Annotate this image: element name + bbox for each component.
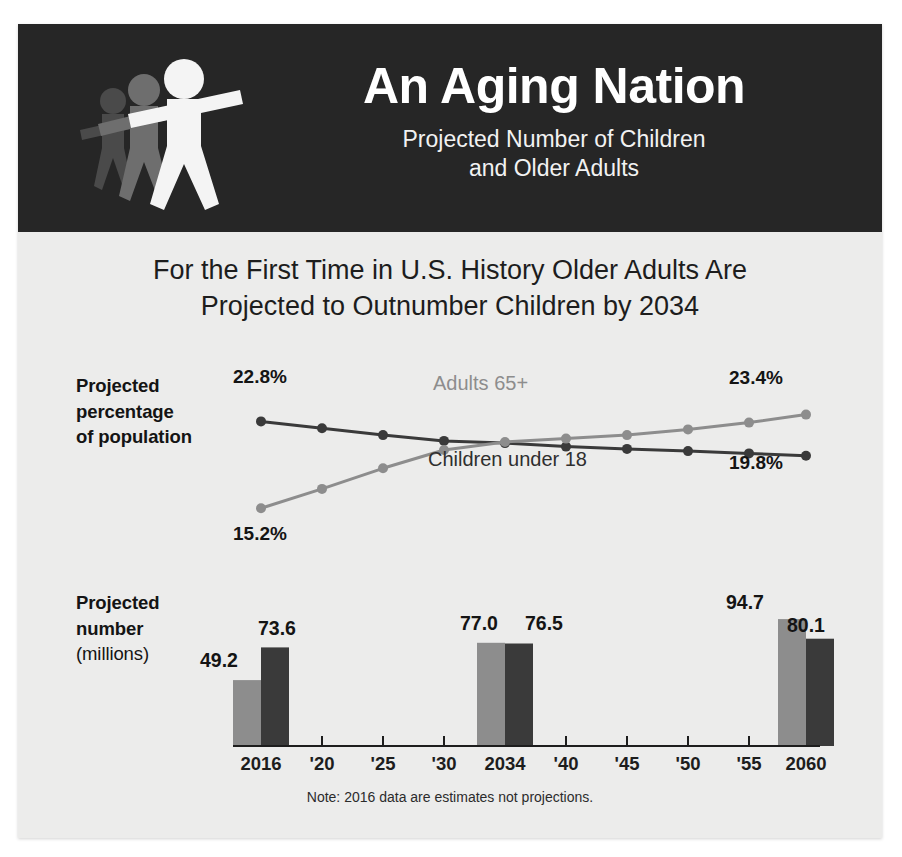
data-point (256, 416, 266, 426)
axis-label-2016: 2016 (240, 753, 281, 775)
page-subtitle-line2: and Older Adults (254, 154, 854, 183)
bar-value-adults-65-plus-2016: 49.2 (200, 649, 238, 672)
series-label-children-under-18: Children under 18 (428, 448, 587, 471)
page-title: An Aging Nation (254, 60, 854, 113)
data-point (500, 437, 510, 447)
axis-label-20: '20 (310, 753, 335, 775)
axis-ticks (322, 736, 749, 746)
adults-end-percent: 23.4% (729, 367, 783, 389)
data-point (801, 451, 811, 461)
axis-label-45: '45 (615, 753, 640, 775)
bar (806, 639, 834, 746)
axis-label-30: '30 (432, 753, 457, 775)
series-label-adults-65-plus: Adults 65+ (433, 372, 528, 395)
axis-label-40: '40 (554, 753, 579, 775)
headline: For the First Time in U.S. History Older… (18, 252, 882, 324)
axis-label-2060: 2060 (785, 753, 826, 775)
data-point (622, 430, 632, 440)
headline-line2: Projected to Outnumber Children by 2034 (18, 288, 882, 324)
data-point (256, 503, 266, 513)
bar-value-adults-65-plus-2034: 77.0 (460, 612, 498, 635)
data-point (439, 436, 449, 446)
data-point (801, 410, 811, 420)
bar-value-children-under-18-2034: 76.5 (525, 612, 563, 635)
axis-tick-labels: 2016'20'25'302034'40'45'50'552060 (0, 753, 902, 779)
data-point (561, 434, 571, 444)
children-end-percent: 19.8% (729, 452, 783, 474)
bar (477, 643, 505, 746)
walking-people-pictogram-icon (80, 52, 248, 212)
bar (261, 647, 289, 746)
chart-note: Note: 2016 data are estimates not projec… (18, 789, 882, 805)
adults-start-percent: 15.2% (233, 523, 287, 545)
axis-label-2034: 2034 (484, 753, 525, 775)
bar-value-children-under-18-2060: 80.1 (787, 614, 825, 637)
header-band: An Aging Nation Projected Number of Chil… (18, 24, 882, 232)
data-point (378, 463, 388, 473)
data-point (317, 484, 327, 494)
data-point (683, 424, 693, 434)
header-title-block: An Aging Nation Projected Number of Chil… (254, 60, 854, 183)
axis-label-55: '55 (737, 753, 762, 775)
axis-label-25: '25 (371, 753, 396, 775)
bar-value-children-under-18-2016: 73.6 (258, 617, 296, 640)
bar (505, 644, 533, 747)
headline-line1: For the First Time in U.S. History Older… (18, 252, 882, 288)
axis-label-50: '50 (676, 753, 701, 775)
data-point (622, 444, 632, 454)
page-subtitle-line1: Projected Number of Children (254, 125, 854, 154)
data-point (683, 446, 693, 456)
page-subtitle: Projected Number of Children and Older A… (254, 125, 854, 183)
bar-group (233, 619, 834, 746)
data-point (378, 430, 388, 440)
bar-value-adults-65-plus-2060: 94.7 (726, 591, 764, 614)
data-point (744, 418, 754, 428)
data-point (317, 423, 327, 433)
bar (778, 619, 806, 746)
projected-number-bar-chart (0, 600, 902, 760)
children-start-percent: 22.8% (233, 366, 287, 388)
bar (233, 680, 261, 746)
